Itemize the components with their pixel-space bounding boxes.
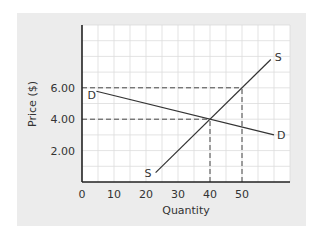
curve-label-s-start: S xyxy=(145,167,152,180)
x-tick-label: 10 xyxy=(107,188,121,201)
x-axis-title: Quantity xyxy=(162,204,210,217)
curve-label-d-end: D xyxy=(277,129,285,142)
supply-demand-chart: DDSS 01020304050 2.004.006.00 Quantity P… xyxy=(0,0,319,239)
y-tick-label: 6.00 xyxy=(51,82,76,95)
y-tick-labels: 2.004.006.00 xyxy=(51,82,76,158)
y-tick-label: 2.00 xyxy=(51,145,76,158)
curve-label-d-start: D xyxy=(87,89,95,102)
x-tick-label: 40 xyxy=(203,188,217,201)
curve-label-s-end: S xyxy=(275,51,282,64)
x-tick-label: 50 xyxy=(235,188,249,201)
x-tick-label: 0 xyxy=(79,188,86,201)
y-axis-title: Price ($) xyxy=(26,81,39,127)
x-tick-label: 20 xyxy=(139,188,153,201)
y-tick-label: 4.00 xyxy=(51,113,76,126)
x-tick-label: 30 xyxy=(171,188,185,201)
